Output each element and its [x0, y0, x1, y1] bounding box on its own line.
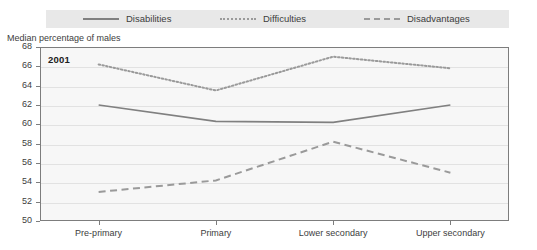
- x-axis-tick: [450, 221, 451, 225]
- y-axis-tick: [36, 163, 40, 164]
- y-axis-tick: [36, 124, 40, 125]
- y-axis-tick: [36, 47, 40, 48]
- legend-item-difficulties: Difficulties: [220, 10, 306, 28]
- legend-item-disabilities: Disabilities: [83, 10, 171, 28]
- chart-legend: Disabilities Difficulties Disadvantages: [46, 10, 509, 28]
- gridlines-group: [41, 48, 508, 220]
- y-axis-tick: [36, 105, 40, 106]
- y-axis-tick-label: 64: [6, 80, 32, 90]
- legend-item-disadvantages: Disadvantages: [364, 10, 470, 28]
- y-axis-tick: [36, 66, 40, 67]
- x-axis-tick-label: Upper secondary: [416, 228, 485, 238]
- y-axis-tick: [36, 182, 40, 183]
- y-axis-tick-label: 50: [6, 215, 32, 225]
- gridline: [41, 145, 508, 146]
- x-axis-tick-label: Lower secondary: [299, 228, 368, 238]
- gridline: [41, 183, 508, 184]
- legend-swatch-solid-line-icon: [83, 14, 119, 24]
- gridline: [41, 164, 508, 165]
- y-axis-tick-label: 68: [6, 41, 32, 51]
- gridline: [41, 87, 508, 88]
- y-axis-tick-label: 54: [6, 176, 32, 186]
- legend-label: Disabilities: [126, 14, 171, 24]
- y-axis-tick-label: 60: [6, 118, 32, 128]
- chart-page: Disabilities Difficulties Disadvantages …: [0, 0, 537, 250]
- x-axis-tick: [99, 221, 100, 225]
- y-axis-tick-label: 58: [6, 138, 32, 148]
- legend-swatch-dashed-line-icon: [364, 14, 400, 24]
- x-axis-tick: [216, 221, 217, 225]
- legend-swatch-dotted-line-icon: [220, 14, 256, 24]
- legend-label: Difficulties: [263, 14, 306, 24]
- gridline: [41, 106, 508, 107]
- y-axis-tick: [36, 221, 40, 222]
- year-annotation: 2001: [48, 54, 70, 65]
- y-axis-tick-label: 62: [6, 99, 32, 109]
- gridline: [41, 67, 508, 68]
- x-axis-tick-label: Pre-primary: [75, 228, 122, 238]
- x-axis-tick-label: Primary: [200, 228, 231, 238]
- y-axis-tick-label: 66: [6, 60, 32, 70]
- y-axis-tick: [36, 202, 40, 203]
- gridline: [41, 125, 508, 126]
- gridline: [41, 203, 508, 204]
- x-axis-tick: [333, 221, 334, 225]
- y-axis-tick: [36, 144, 40, 145]
- y-axis-tick: [36, 86, 40, 87]
- y-axis-tick-label: 56: [6, 157, 32, 167]
- legend-label: Disadvantages: [407, 14, 470, 24]
- plot-area: 2001: [40, 47, 509, 221]
- y-axis-tick-label: 52: [6, 196, 32, 206]
